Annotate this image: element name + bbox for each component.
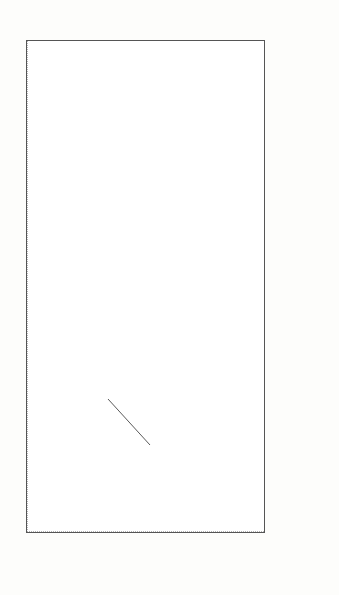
- chart-canvas: [0, 0, 339, 595]
- figure-page: [0, 0, 339, 595]
- rotated-figure-wrapper: [0, 0, 339, 595]
- annotation-leader-lines: [108, 399, 150, 445]
- chart-figure: [0, 0, 339, 595]
